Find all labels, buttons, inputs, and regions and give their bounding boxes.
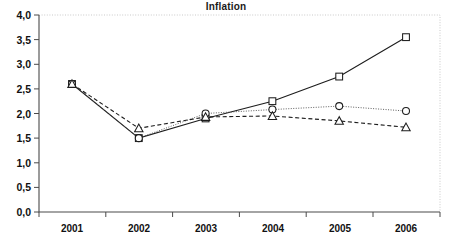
x-tick-label-2004: 2004 bbox=[262, 223, 285, 234]
y-tick-label-4: 2,0 bbox=[16, 108, 31, 120]
y-tick-label-1: 0,5 bbox=[16, 181, 31, 193]
axis-lines bbox=[39, 15, 440, 212]
y-tick-marks bbox=[34, 15, 39, 212]
y-tick-label-5: 2,5 bbox=[16, 83, 31, 95]
x-tick-marks bbox=[39, 212, 440, 217]
y-tick-label-7: 3,5 bbox=[16, 34, 31, 46]
marker-series-square-2005 bbox=[336, 73, 343, 80]
x-tick-label-2003: 2003 bbox=[195, 223, 218, 234]
y-tick-label-6: 3,0 bbox=[16, 58, 31, 70]
chart-plot-area: 0,0 0,5 1,0 1,5 2,0 2,5 3,0 3,5 4,0 2001… bbox=[0, 0, 452, 243]
marker-series-circle-2002 bbox=[135, 135, 142, 142]
marker-series-square-2006 bbox=[403, 34, 410, 41]
y-tick-label-8: 4,0 bbox=[16, 9, 31, 21]
line-series-circle bbox=[72, 84, 406, 138]
y-tick-label-3: 1,5 bbox=[16, 132, 31, 144]
y-tick-label-0: 0,0 bbox=[16, 206, 31, 218]
plot-frame bbox=[39, 15, 440, 212]
marker-series-circle-2006 bbox=[403, 108, 410, 115]
y-tick-label-2: 1,0 bbox=[16, 157, 31, 169]
data-series-layer bbox=[68, 34, 410, 142]
line-series-triangle bbox=[72, 84, 406, 128]
marker-series-circle-2005 bbox=[336, 103, 343, 110]
x-tick-label-2002: 2002 bbox=[128, 223, 151, 234]
inflation-chart: Inflation 0,0 0,5 1,0 1,5 2,0 2,5 3,0 3,… bbox=[0, 0, 452, 243]
marker-series-square-2004 bbox=[269, 98, 276, 105]
x-tick-label-2006: 2006 bbox=[395, 223, 418, 234]
x-tick-label-2005: 2005 bbox=[329, 223, 352, 234]
x-tick-label-2001: 2001 bbox=[61, 223, 84, 234]
